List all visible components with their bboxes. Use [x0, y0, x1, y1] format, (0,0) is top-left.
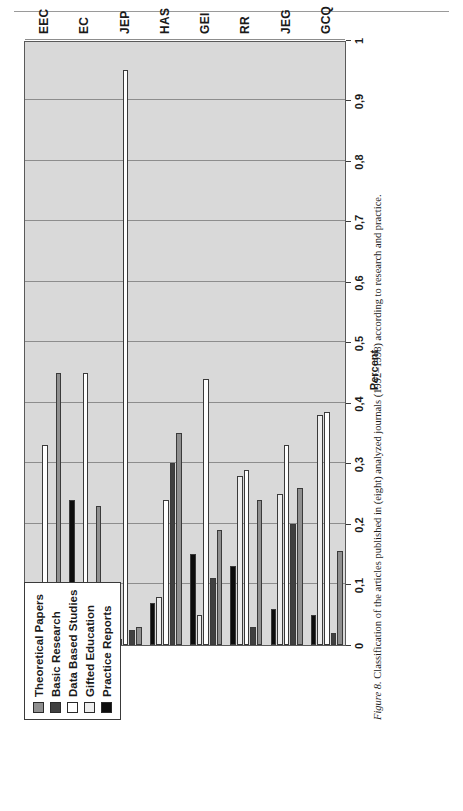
- bar: [230, 566, 236, 645]
- category-label-has: HAS: [158, 8, 172, 34]
- bar: [271, 609, 277, 645]
- category-label-jep: JEP: [118, 10, 132, 34]
- bar: [257, 500, 263, 645]
- legend-item: Theoretical Papers: [30, 590, 47, 713]
- legend-label: Basic Research: [50, 611, 62, 697]
- tick-label: 0,8: [353, 154, 365, 169]
- legend-swatch-icon: [101, 702, 112, 713]
- legend-label: Data Based Studies: [67, 590, 79, 697]
- tick-mark: [346, 161, 351, 162]
- bar-group: [65, 42, 105, 645]
- tick-mark: [346, 524, 351, 525]
- tick-label: 0,4: [353, 396, 365, 411]
- bar: [317, 415, 323, 645]
- tick-mark: [346, 40, 351, 41]
- tick-mark: [346, 403, 351, 404]
- bar: [277, 494, 283, 645]
- tick-mark: [346, 101, 351, 102]
- bar-group: [25, 42, 65, 645]
- tick-mark: [346, 464, 351, 465]
- category-label-jeg: JEG: [279, 9, 293, 34]
- tick-mark: [346, 282, 351, 283]
- category-label-gcq: GCQ: [319, 6, 333, 34]
- bar: [136, 627, 142, 645]
- bar: [311, 615, 317, 645]
- legend-swatch-icon: [84, 702, 95, 713]
- tick-mark: [346, 585, 351, 586]
- tick-mark: [346, 645, 351, 646]
- bar: [237, 476, 243, 645]
- bar: [129, 630, 135, 645]
- bar: [210, 578, 216, 645]
- bar-group: [146, 42, 186, 645]
- figure-caption-label: Figure 8.: [372, 681, 383, 720]
- tick-label: 0,5: [353, 336, 365, 351]
- tick-label: 0,3: [353, 457, 365, 472]
- legend-swatch-icon: [33, 702, 44, 713]
- tick-label: 0,9: [353, 94, 365, 109]
- bar: [337, 551, 343, 645]
- bar: [156, 597, 162, 645]
- bar: [150, 603, 156, 645]
- bar: [197, 615, 203, 645]
- legend-item: Basic Research: [47, 590, 64, 713]
- legend-item: Practice Reports: [98, 590, 115, 713]
- bar: [217, 530, 223, 645]
- bar: [284, 445, 290, 645]
- bar: [163, 500, 169, 645]
- bar: [331, 633, 337, 645]
- bar: [244, 470, 250, 645]
- category-label-eec: EEC: [37, 8, 51, 34]
- legend-item: Gifted Education: [81, 590, 98, 713]
- legend-label: Practice Reports: [101, 606, 113, 697]
- tick-label: 0,6: [353, 275, 365, 290]
- bar: [203, 379, 209, 645]
- bar: [190, 554, 196, 645]
- tick-mark: [346, 222, 351, 223]
- tick-label: 0,1: [353, 578, 365, 593]
- chart-legend: Theoretical PapersBasic ResearchData Bas…: [24, 582, 121, 720]
- tick-label: 0,2: [353, 517, 365, 532]
- legend-item: Data Based Studies: [64, 590, 81, 713]
- bar: [250, 627, 256, 645]
- legend-label: Gifted Education: [84, 605, 96, 697]
- figure-caption-text: Classification of the articles published…: [372, 194, 383, 681]
- bar-group: [226, 42, 266, 645]
- bar-group: [106, 42, 146, 645]
- bar: [324, 412, 330, 645]
- gridline: [25, 39, 345, 40]
- figure-rotated-container: GCQJEGRRGEIHASJEPECEEC 00,10,20,30,40,50…: [0, 0, 400, 740]
- tick-label: 0: [353, 643, 365, 649]
- figure-caption: Figure 8. Classification of the articles…: [372, 20, 384, 720]
- legend-swatch-icon: [50, 702, 61, 713]
- bar-group: [267, 42, 307, 645]
- bar: [297, 488, 303, 645]
- legend-swatch-icon: [67, 702, 78, 713]
- bar: [290, 524, 296, 645]
- tick-mark: [346, 343, 351, 344]
- bar-group: [186, 42, 226, 645]
- category-label-ec: EC: [77, 17, 91, 34]
- tick-label: 0,7: [353, 215, 365, 230]
- tick-label: 1: [353, 38, 365, 44]
- bar-group: [307, 42, 347, 645]
- chart-plot-area: [24, 41, 346, 646]
- bar: [176, 433, 182, 645]
- legend-label: Theoretical Papers: [33, 594, 45, 697]
- category-label-rr: RR: [238, 16, 252, 34]
- category-label-gei: GEI: [198, 12, 212, 34]
- bar: [170, 464, 176, 646]
- bar: [123, 70, 129, 645]
